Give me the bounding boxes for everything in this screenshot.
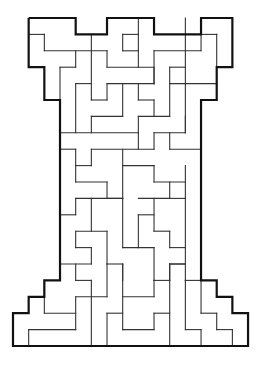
maze-canvas	[0, 0, 263, 365]
rook-maze	[0, 0, 263, 365]
